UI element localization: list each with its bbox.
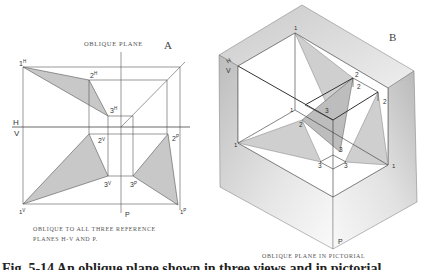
- fold-label-v: V: [14, 129, 20, 138]
- point-3h: 3H: [110, 106, 117, 114]
- pict-point-inner-3: 3: [325, 107, 329, 114]
- figure-caption-clipped: Fig. 5-14 An oblique plane shown in thre…: [0, 262, 430, 270]
- view-a-title: OBLIQUE PLANE: [84, 40, 143, 47]
- pict-point-right-2: 2: [383, 98, 387, 105]
- view-a-letter: A: [164, 39, 172, 51]
- plane-label-p: P: [338, 238, 343, 245]
- point-2h: 2H: [90, 71, 97, 79]
- view-b-caption: OBLIQUE PLANE IN PICTORIAL: [262, 253, 365, 259]
- point-1v: 1V: [19, 208, 25, 215]
- view-b-letter: B: [389, 31, 396, 43]
- pict-point-top-2: 2: [355, 71, 359, 78]
- view-a-caption-line1: OBLIQUE TO ALL THREE REFERENCE: [33, 226, 156, 232]
- pict-point-right-3: 3: [344, 162, 348, 169]
- view-a-caption-line2: PLANES H-V AND P.: [33, 236, 98, 242]
- view-a-orthographic: OBLIQUE PLANE A H V P 1: [12, 39, 190, 242]
- plane-label-v: V: [226, 67, 231, 74]
- plane-side-view: [133, 134, 178, 205]
- pict-point-inner-2: 2: [299, 121, 303, 128]
- view-b-pictorial: B H V: [219, 5, 417, 259]
- pict-point-mid-2: 2: [357, 83, 361, 90]
- fold-label-p: P: [125, 211, 130, 218]
- pict-point-left-3: 3: [318, 162, 322, 169]
- point-3v: 3V: [104, 181, 111, 188]
- fold-label-h: H: [13, 118, 19, 127]
- point-2v: 2V: [98, 137, 105, 144]
- pict-point-lower-3: 3: [339, 146, 343, 153]
- point-1p: 1P: [180, 208, 186, 215]
- point-2p: 2P: [172, 134, 179, 142]
- oblique-plane-figure: OBLIQUE PLANE A H V P 1: [0, 0, 430, 270]
- plane-front-view: [23, 134, 108, 204]
- figure-caption-text: Fig. 5-14 An oblique plane shown in thre…: [0, 262, 430, 270]
- point-3p: 3P: [130, 181, 137, 188]
- point-1h: 1H: [19, 59, 26, 67]
